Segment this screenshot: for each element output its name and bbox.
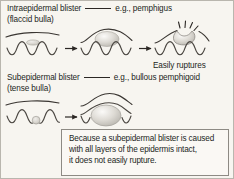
intraepidermal-heading-main: Intraepidermal blister [7,4,81,13]
em-dash-connector-icon [84,77,110,78]
intraepidermal-heading-sub: (flaccid bulla) [7,15,54,24]
rupture-burst-icon [179,21,199,31]
intraepidermal-caption: Easily ruptures [153,61,206,70]
stage-early-subepidermal-blister [6,101,60,124]
stage-tense-bulla [81,94,132,126]
subepidermal-heading-main: Subepidermal blister [7,73,80,82]
ruptured-blister-remnant [173,31,194,45]
blister-cavity-large [95,32,119,47]
subepidermal-heading-sub: (tense bulla) [7,84,51,93]
blister-cavity-small [27,40,40,45]
subepidermal-blister-large [91,105,121,126]
subepidermal-blister-small [32,116,40,124]
em-dash-connector-icon [85,8,111,9]
subepidermal-heading-example: e.g., bullous pemphigoid [114,73,200,82]
subepidermal-heading: Subepidermal blister e.g., bullous pemph… [7,73,200,82]
stage-enlarged-flaccid-bulla [81,29,132,55]
stage-ruptured-bulla [155,21,209,55]
note-box-line-2: with all layers of the epidermis intact, [69,145,197,156]
note-box-line-3: it does not easily rupture. [69,156,156,167]
stage-early-flaccid-blister [6,33,59,55]
blister-types-diagram: Intraepidermal blister e.g., pemphigus (… [0,0,234,179]
intraepidermal-heading-example: e.g., pemphigus [115,4,172,13]
note-box-line-1: Because a subepidermal blister is caused [69,134,214,145]
intraepidermal-heading: Intraepidermal blister e.g., pemphigus [7,4,172,13]
